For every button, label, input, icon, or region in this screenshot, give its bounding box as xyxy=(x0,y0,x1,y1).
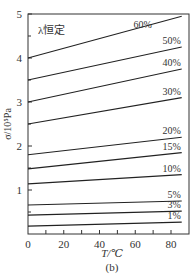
y-tick-label: 5 xyxy=(17,8,23,20)
y-axis-label: σ/10⁵Pa xyxy=(2,108,13,140)
x-tick-label: 60 xyxy=(130,238,142,250)
series-line xyxy=(28,137,182,155)
figure-caption: (b) xyxy=(106,261,119,274)
series-line xyxy=(28,153,182,169)
x-tick-label: 0 xyxy=(25,238,31,250)
series-label: 30% xyxy=(162,86,180,97)
series-label: 60% xyxy=(133,19,151,30)
series-label: 3% xyxy=(167,199,180,210)
series-label: 20% xyxy=(162,125,180,136)
y-axis-ticks: 12345 xyxy=(17,8,33,212)
series-label: 15% xyxy=(162,141,180,152)
stress-temperature-chart: 12345 020406080 60%50%40%30%20%15%10%5%3… xyxy=(0,0,194,275)
series-lines: 60%50%40%30%20%15%10%5%3%1% xyxy=(28,16,182,226)
y-tick-label: 4 xyxy=(17,52,23,64)
x-tick-label: 80 xyxy=(166,238,178,250)
series-label: 50% xyxy=(162,35,180,46)
x-axis-label: T/℃ xyxy=(101,247,123,259)
series-label: 1% xyxy=(167,210,180,221)
series-line xyxy=(28,222,182,226)
constant-lambda-annotation: λ恒定 xyxy=(38,23,65,36)
series-line xyxy=(28,175,182,184)
plot-area: 12345 020406080 60%50%40%30%20%15%10%5%3… xyxy=(0,0,194,275)
series-line xyxy=(28,211,182,215)
series-label: 40% xyxy=(162,57,180,68)
series-line xyxy=(28,69,182,102)
x-tick-label: 20 xyxy=(58,238,70,250)
y-tick-label: 1 xyxy=(17,184,23,196)
series-label: 10% xyxy=(162,163,180,174)
series-line xyxy=(28,98,182,124)
series-line xyxy=(28,201,182,205)
y-tick-label: 3 xyxy=(17,96,23,108)
y-tick-label: 2 xyxy=(17,140,23,152)
